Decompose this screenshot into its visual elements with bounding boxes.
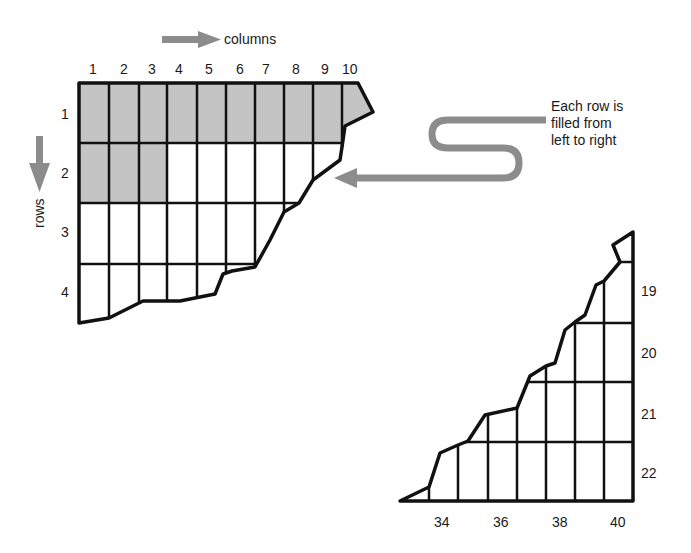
note-line-3: left to right [551, 132, 681, 149]
raster-fill-diagram: columns 1 2 3 4 5 6 7 8 9 10 rows 1 2 3 … [0, 0, 691, 553]
svg-text:40: 40 [610, 514, 626, 530]
svg-text:7: 7 [262, 61, 270, 77]
svg-text:1: 1 [61, 106, 69, 122]
svg-text:34: 34 [434, 514, 450, 530]
svg-text:3: 3 [61, 224, 69, 240]
row-labels: 1 2 3 4 [61, 106, 69, 300]
svg-text:9: 9 [321, 61, 329, 77]
right-row-labels: 19 20 21 22 [641, 283, 657, 481]
svg-text:22: 22 [641, 465, 657, 481]
columns-axis-label: columns [224, 31, 276, 47]
row-fill-direction-arrow-icon [334, 120, 546, 188]
svg-text:19: 19 [641, 283, 657, 299]
svg-text:8: 8 [292, 61, 300, 77]
svg-text:1: 1 [89, 61, 97, 77]
svg-text:38: 38 [552, 514, 568, 530]
top-left-raster-grid [70, 75, 390, 335]
svg-text:4: 4 [61, 284, 69, 300]
svg-text:10: 10 [342, 61, 358, 77]
svg-text:21: 21 [641, 406, 657, 422]
svg-text:5: 5 [205, 61, 213, 77]
note-line-1: Each row is [551, 98, 681, 115]
svg-text:36: 36 [493, 514, 509, 530]
svg-text:6: 6 [236, 61, 244, 77]
rows-arrow-icon [29, 136, 50, 192]
rows-axis-label: rows [31, 198, 47, 228]
right-column-labels: 34 36 38 40 [434, 514, 626, 530]
fill-order-note: Each row is filled from left to right [551, 98, 681, 149]
note-line-2: filled from [551, 115, 681, 132]
svg-text:20: 20 [641, 345, 657, 361]
svg-text:3: 3 [148, 61, 156, 77]
bottom-right-raster-grid [390, 225, 640, 510]
filled-row-2-partial [70, 143, 167, 203]
columns-arrow-icon [162, 31, 221, 48]
svg-text:2: 2 [61, 165, 69, 181]
column-labels: 1 2 3 4 5 6 7 8 9 10 [89, 61, 358, 77]
svg-text:2: 2 [120, 61, 128, 77]
svg-text:4: 4 [175, 61, 183, 77]
